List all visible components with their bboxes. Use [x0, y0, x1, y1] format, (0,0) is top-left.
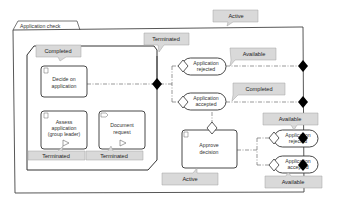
svg-text:accepted: accepted	[195, 101, 216, 107]
task-document-request[interactable]: Document request	[99, 111, 145, 149]
callout-case-state: Active	[213, 10, 258, 26]
cmmn-diagram: Application check Decide on application	[0, 0, 339, 203]
task-assess-application[interactable]: Assess application (group leader)	[41, 111, 87, 149]
svg-text:Available: Available	[243, 51, 266, 57]
svg-text:Active: Active	[182, 176, 197, 182]
case-plan-name: Application check	[20, 23, 61, 29]
human-task-icon	[44, 68, 48, 73]
svg-text:Terminated: Terminated	[152, 36, 180, 42]
milestone-application-rejected-1[interactable]: Application rejected	[178, 58, 226, 75]
milestone-application-accepted-1[interactable]: Application accepted	[178, 93, 226, 110]
svg-text:Active: Active	[228, 13, 243, 19]
exit-criterion-icon	[152, 78, 162, 90]
task-decide-on-application[interactable]: Decide on application	[41, 66, 87, 97]
svg-text:decision: decision	[199, 149, 218, 155]
svg-text:Available: Available	[279, 116, 302, 122]
human-task-icon	[44, 113, 48, 118]
case-plan-tab[interactable]: Application check	[13, 21, 80, 30]
milestone-application-rejected-2[interactable]: Application rejected	[269, 130, 318, 147]
exit-criterion-icon	[298, 60, 308, 72]
callout-milestone-1-state: Available	[230, 48, 276, 66]
svg-text:(group leader): (group leader)	[48, 131, 81, 137]
callout-stage-state: Completed	[36, 45, 81, 61]
task-approve-decision[interactable]: Approve decision	[182, 122, 237, 168]
svg-text:Terminated: Terminated	[42, 153, 70, 159]
callout-approve-state: Active	[162, 168, 218, 185]
svg-text:request: request	[113, 129, 131, 135]
svg-text:application: application	[52, 83, 77, 89]
callout-milestone-3-state: Available	[263, 113, 318, 130]
exit-criterion-icon	[298, 96, 308, 108]
svg-text:Decide on: Decide on	[52, 76, 75, 82]
callout-milestone-2-state: Completed	[232, 83, 285, 101]
milestone-application-accepted-2[interactable]: Application accepted	[269, 156, 318, 173]
svg-text:rejected: rejected	[197, 66, 216, 72]
svg-text:Completed: Completed	[245, 86, 272, 92]
process-task-icon	[101, 113, 108, 117]
callout-milestone-4-state: Available	[265, 172, 322, 188]
human-task-icon	[184, 132, 188, 137]
svg-text:Available: Available	[282, 179, 305, 185]
svg-text:Terminated: Terminated	[100, 153, 128, 159]
svg-text:Document: Document	[110, 122, 134, 128]
callout-stage-exit-state: Terminated	[144, 33, 189, 52]
svg-text:Approve: Approve	[199, 142, 218, 148]
svg-text:Completed: Completed	[44, 48, 71, 54]
